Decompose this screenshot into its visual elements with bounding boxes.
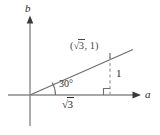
vertical-axis-arrowhead [27,16,34,24]
figure-canvas [0,0,160,135]
trig-coordinate-figure: b a (√3, 1) 30° 1 √3 [0,0,160,135]
right-angle-square-marker [104,89,111,96]
horizontal-axis-label: a [145,89,151,100]
angle-label: 30° [59,79,73,89]
vertical-axis-label: b [25,3,31,14]
horizontal-axis-arrowhead [133,92,142,99]
opposite-leg-label: 1 [116,68,122,79]
point-label-suffix: , 1) [85,40,99,51]
adjacent-leg-label: √3 [62,99,74,110]
point-radical-argument: 3 [78,39,84,51]
point-coordinate-label: (√3, 1) [70,41,99,52]
adjacent-radical: √3 [62,99,74,110]
adjacent-radical-argument: 3 [67,97,74,110]
point-label-radical: √3 [74,41,85,52]
